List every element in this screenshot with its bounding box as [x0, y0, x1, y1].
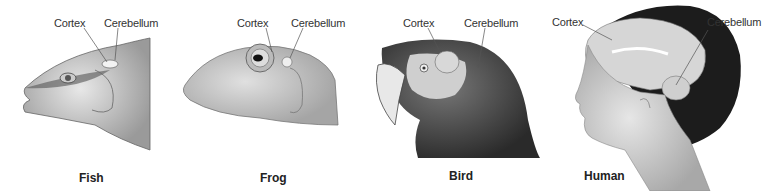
human-caption: Human: [584, 169, 625, 183]
fish-caption: Fish: [79, 171, 104, 185]
fish-illustration: [23, 28, 150, 150]
human-cortex-label: Cortex: [552, 16, 583, 28]
bird-caption: Bird: [449, 169, 473, 183]
frog-illustration: [183, 28, 338, 125]
fish-cortex-label: Cortex: [54, 17, 85, 29]
human-illustration: [575, 6, 740, 192]
frog-caption: Frog: [260, 171, 287, 185]
fish-cerebellum-label: Cerebellum: [104, 17, 158, 29]
frog-cerebellum-label: Cerebellum: [291, 17, 345, 29]
bird-illustration: [376, 28, 540, 158]
frog-cortex-label: Cortex: [237, 17, 268, 29]
bird-cerebellum-label: Cerebellum: [464, 17, 518, 29]
human-cerebellum-label: Cerebellum: [707, 16, 761, 28]
bird-cortex-label: Cortex: [403, 17, 434, 29]
